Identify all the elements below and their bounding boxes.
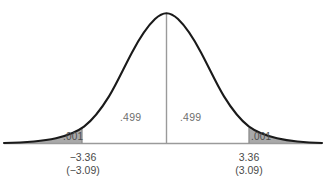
right-axis-secondary-value: (3.09) [218, 164, 280, 177]
right-body-probability-label: .499 [180, 112, 201, 123]
right-axis-value-group: 3.36 (3.09) [218, 151, 280, 177]
normal-distribution-figure: .001 .499 .499 .001 −3.36 (−3.09) 3.36 (… [0, 0, 326, 189]
left-axis-primary-value: −3.36 [52, 151, 114, 164]
right-tail-probability-label: .001 [251, 131, 271, 142]
left-tail-probability-label: .001 [63, 131, 83, 142]
left-axis-value-group: −3.36 (−3.09) [52, 151, 114, 177]
left-body-probability-label: .499 [120, 112, 141, 123]
left-axis-secondary-value: (−3.09) [52, 164, 114, 177]
right-axis-primary-value: 3.36 [218, 151, 280, 164]
bell-curve-path [4, 13, 322, 143]
